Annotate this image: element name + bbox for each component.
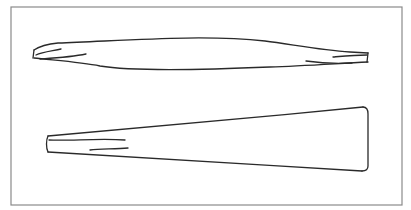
upper-double-ended-strip xyxy=(33,38,368,70)
lower-wedge-strip xyxy=(47,107,369,171)
figure-frame xyxy=(11,7,402,205)
figure-canvas xyxy=(0,0,411,210)
